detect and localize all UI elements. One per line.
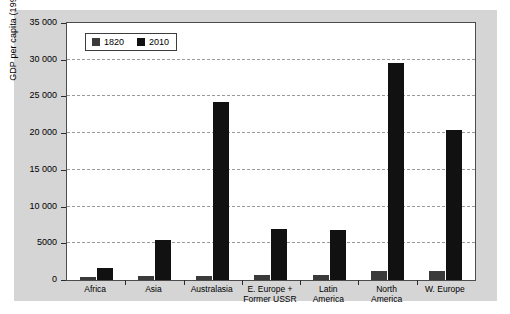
bar-2010 <box>446 130 462 280</box>
bar-group <box>358 23 416 280</box>
x-axis-labels: AfricaAsiaAustralasiaE. Europe + Former … <box>66 284 476 312</box>
x-axis-label: Africa <box>66 284 124 294</box>
bar-1820 <box>371 271 387 280</box>
bar-2010 <box>271 229 287 280</box>
bar-1820 <box>313 275 329 280</box>
y-axis-tick-label: 35 000 <box>29 17 57 27</box>
legend-label-1820: 1820 <box>104 37 124 47</box>
y-axis-tick-label: 5000 <box>37 237 57 247</box>
y-axis-tick-label: 0 <box>52 274 57 284</box>
legend-swatch-1820 <box>92 38 100 46</box>
x-axis-tick-mark <box>358 280 359 285</box>
legend-label-2010: 2010 <box>149 37 169 47</box>
x-axis-tick-mark <box>184 280 185 285</box>
y-axis-tick-label: 25 000 <box>29 90 57 100</box>
chart-legend: 1820 2010 <box>85 33 177 51</box>
bar-series-container <box>67 23 475 280</box>
legend-swatch-2010 <box>137 38 145 46</box>
bar-2010 <box>388 63 404 280</box>
bar-group <box>67 23 125 280</box>
x-axis-label: Asia <box>124 284 182 294</box>
bar-1820 <box>196 276 212 280</box>
bar-group <box>125 23 183 280</box>
bar-2010 <box>330 230 346 280</box>
x-axis-label: Latin America <box>299 284 357 304</box>
y-axis-tick-label: 10 000 <box>29 201 57 211</box>
x-axis-tick-mark <box>242 280 243 285</box>
y-axis-title: GDP per capita (1990 $) <box>8 0 18 106</box>
x-axis-label: Australasia <box>183 284 241 294</box>
x-axis-label: North America <box>357 284 415 304</box>
legend-item-1820: 1820 <box>92 37 124 47</box>
bar-1820 <box>254 275 270 280</box>
bar-group <box>300 23 358 280</box>
x-axis-label: W. Europe <box>416 284 474 294</box>
bar-2010 <box>155 240 171 280</box>
bar-group <box>184 23 242 280</box>
bar-group <box>417 23 475 280</box>
x-axis-tick-mark <box>417 280 418 285</box>
bar-2010 <box>213 102 229 280</box>
bar-2010 <box>97 268 113 280</box>
bar-1820 <box>80 277 96 280</box>
x-axis-label: E. Europe + Former USSR <box>241 284 299 304</box>
bar-group <box>242 23 300 280</box>
y-axis-tick-label: 30 000 <box>29 54 57 64</box>
bar-1820 <box>138 276 154 280</box>
x-axis-tick-mark <box>300 280 301 285</box>
legend-item-2010: 2010 <box>137 37 169 47</box>
chart-figure: GDP per capita (1990 $) 0500010 00015 00… <box>14 10 497 301</box>
x-axis-tick-mark <box>125 280 126 285</box>
y-axis-tick-label: 15 000 <box>29 164 57 174</box>
y-axis-tick-label: 20 000 <box>29 127 57 137</box>
bar-1820 <box>429 271 445 280</box>
